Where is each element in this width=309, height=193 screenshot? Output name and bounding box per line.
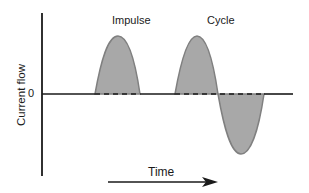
zero-label: 0 — [28, 88, 34, 99]
current-flow-diagram: Impulse Cycle 0 Current flow Time — [0, 0, 309, 193]
impulse-wave — [95, 36, 140, 94]
x-axis-label: Time — [148, 166, 174, 178]
cycle-label: Cycle — [207, 15, 235, 26]
impulse-label: Impulse — [112, 15, 151, 26]
y-axis-label: Current flow — [16, 64, 28, 126]
cycle-positive-wave — [175, 36, 218, 94]
cycle-negative-wave — [218, 94, 264, 154]
